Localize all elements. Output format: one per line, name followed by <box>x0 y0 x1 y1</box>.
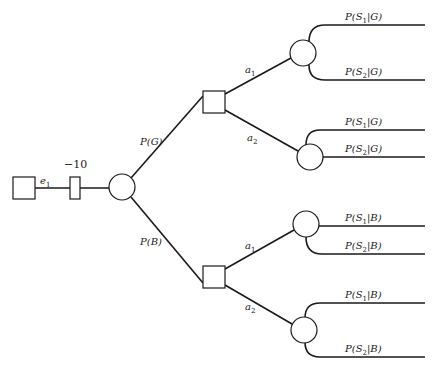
chance-node-G-a1 <box>290 40 316 66</box>
label-pB: P(B) <box>139 236 162 247</box>
label-s2-given-G: P(S2|G) <box>344 143 382 157</box>
cost-marker <box>70 177 80 199</box>
edge-B-a1 <box>225 230 294 269</box>
decision-node-G <box>203 91 225 113</box>
label-s2-given-B: P(S2|B) <box>344 343 382 357</box>
chance-node-B-a1 <box>293 211 319 237</box>
label-B-a1: a1 <box>245 240 255 254</box>
root-decision-node <box>13 177 35 199</box>
chance-node-B-a2 <box>291 317 317 343</box>
edge-G-a1 <box>225 58 291 94</box>
label-s1-given-G: P(S1|G) <box>344 11 382 25</box>
label-e1: e1 <box>40 175 50 189</box>
label-s2-given-G: P(S2|G) <box>344 66 382 80</box>
label-pG: P(G) <box>139 136 163 147</box>
label-cost: −10 <box>64 158 87 171</box>
outcome-G-a2-s1 <box>306 130 425 145</box>
label-s1-given-B: P(S1|B) <box>344 212 382 226</box>
decision-node-B <box>203 266 225 288</box>
label-s1-given-G: P(S1|G) <box>344 116 382 130</box>
label-B-a2: a2 <box>245 301 255 315</box>
decision-tree-diagram: e1 −10 P(G) P(B) a1 a2 a1 a2 P(S1|G) P(S… <box>0 0 435 366</box>
edge-G-a2 <box>225 110 298 151</box>
outcome-G-a1-s1 <box>309 25 425 42</box>
outcome-B-a2-s1 <box>305 303 425 318</box>
label-G-a1: a1 <box>245 64 255 78</box>
label-G-a2: a2 <box>247 132 257 146</box>
chance-node-root <box>109 174 135 200</box>
edge-B-a2 <box>225 285 292 324</box>
label-s2-given-B: P(S2|B) <box>344 240 382 254</box>
label-s1-given-B: P(S1|B) <box>344 289 382 303</box>
chance-node-G-a2 <box>297 144 323 170</box>
